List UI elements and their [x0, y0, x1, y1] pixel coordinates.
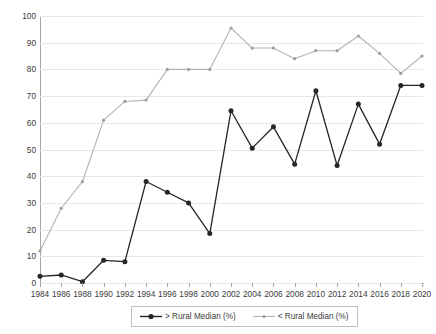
- legend-label-above-rural-median: > Rural Median (%): [165, 312, 236, 321]
- data-point: [420, 54, 423, 57]
- data-point: [60, 207, 63, 210]
- x-axis-tick: [380, 283, 381, 287]
- data-point: [165, 190, 170, 195]
- data-point: [251, 46, 254, 49]
- data-point: [102, 119, 105, 122]
- legend-label-below-rural-median: < Rural Median (%): [278, 312, 349, 321]
- x-axis-tick: [401, 283, 402, 287]
- x-axis-tick: [252, 283, 253, 287]
- data-point: [101, 258, 106, 263]
- x-axis-tick: [358, 283, 359, 287]
- y-tick-label: 50: [16, 145, 36, 155]
- data-point: [356, 102, 361, 107]
- y-tick-label: 80: [16, 64, 36, 74]
- legend-marker-icon: [140, 312, 162, 321]
- x-axis-tick: [337, 283, 338, 287]
- x-axis-tick: [422, 283, 423, 287]
- x-axis-tick: [316, 283, 317, 287]
- data-point: [38, 249, 41, 252]
- data-point: [336, 49, 339, 52]
- data-point: [271, 124, 276, 129]
- x-axis-tick: [40, 283, 41, 287]
- data-point: [186, 200, 191, 205]
- x-axis-tick: [273, 283, 274, 287]
- y-tick-label: 0: [16, 278, 36, 288]
- data-point: [398, 83, 403, 88]
- data-point: [250, 146, 255, 151]
- data-point: [377, 142, 382, 147]
- x-axis-tick: [295, 283, 296, 287]
- data-point: [335, 163, 340, 168]
- data-point: [357, 34, 360, 37]
- data-point: [420, 83, 425, 88]
- x-axis-tick: [167, 283, 168, 287]
- data-point: [399, 72, 402, 75]
- y-tick-label: 30: [16, 198, 36, 208]
- legend-entry-below-rural-median[interactable]: < Rural Median (%): [253, 312, 349, 321]
- plot-area: [40, 16, 423, 283]
- series-line: [40, 28, 422, 251]
- data-point: [229, 26, 232, 29]
- data-point: [81, 180, 84, 183]
- data-point: [145, 99, 148, 102]
- x-axis-tick: [61, 283, 62, 287]
- y-tick-label: 20: [16, 225, 36, 235]
- y-tick-label: 10: [16, 251, 36, 261]
- y-tick-label: 60: [16, 118, 36, 128]
- x-axis-tick: [231, 283, 232, 287]
- y-tick-label: 70: [16, 91, 36, 101]
- x-axis-tick: [104, 283, 105, 287]
- data-point: [59, 272, 64, 277]
- x-axis-tick: [189, 283, 190, 287]
- data-point: [144, 179, 149, 184]
- x-axis-tick: [125, 283, 126, 287]
- series-below-rural-median: [38, 26, 423, 252]
- data-point: [293, 57, 296, 60]
- x-tick-label: 2020: [405, 289, 436, 299]
- x-axis-tick: [210, 283, 211, 287]
- data-point: [272, 46, 275, 49]
- x-axis-tick: [146, 283, 147, 287]
- x-axis-tick: [82, 283, 83, 287]
- y-tick-label: 100: [16, 11, 36, 21]
- data-point: [314, 49, 317, 52]
- series-above-rural-median: [38, 83, 425, 284]
- series-line: [40, 85, 422, 281]
- data-point: [207, 231, 212, 236]
- data-point: [123, 100, 126, 103]
- series-layer: [40, 16, 423, 283]
- y-tick-label: 40: [16, 171, 36, 181]
- data-point: [378, 52, 381, 55]
- data-point: [292, 162, 297, 167]
- data-point: [208, 68, 211, 71]
- data-point: [313, 88, 318, 93]
- data-point: [122, 259, 127, 264]
- data-point: [166, 68, 169, 71]
- y-tick-label: 90: [16, 38, 36, 48]
- y-axis-tick-labels: 0102030405060708090100: [12, 0, 36, 334]
- data-point: [187, 68, 190, 71]
- data-point: [229, 108, 234, 113]
- legend-marker-icon: [253, 312, 275, 321]
- legend-entry-above-rural-median[interactable]: > Rural Median (%): [140, 312, 236, 321]
- chart-legend: > Rural Median (%) < Rural Median (%): [131, 306, 358, 327]
- data-point: [38, 274, 43, 279]
